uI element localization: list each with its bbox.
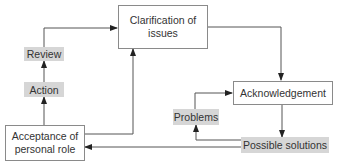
node-text: issues (148, 27, 178, 40)
label-review: Review (24, 47, 64, 61)
edge-solutions-problems (196, 125, 241, 140)
edge-problems-acknowledgement (195, 93, 232, 109)
node-text: personal role (15, 143, 76, 156)
node-text: Acknowledgement (240, 87, 326, 100)
label-possible-solutions: Possible solutions (241, 137, 329, 153)
edge-review-clarification (44, 28, 117, 47)
node-acknowledgement: Acknowledgement (233, 81, 333, 105)
node-text: Acceptance of (12, 130, 79, 143)
node-acceptance-of-personal-role: Acceptance of personal role (5, 125, 85, 161)
edge-clarification-acknowledgement (207, 27, 281, 80)
label-action: Action (24, 82, 64, 97)
node-text: Clarification of (130, 14, 197, 27)
label-problems: Problems (173, 109, 219, 125)
node-clarification-of-issues: Clarification of issues (118, 5, 208, 49)
edge-acceptance-clarification (84, 49, 133, 134)
